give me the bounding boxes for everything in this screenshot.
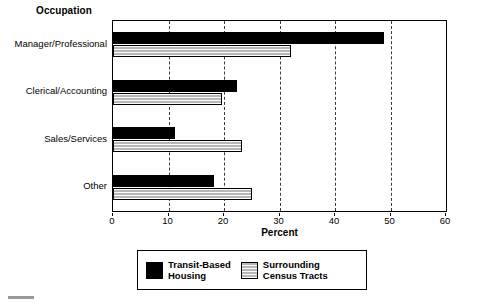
page-title: Occupation <box>36 5 92 16</box>
x-tick-label-20: 20 <box>218 215 229 226</box>
bar-surrounding-census-tracts-manager-professional <box>113 45 291 57</box>
y-axis-labels: Manager/Professional Clerical/Accounting… <box>0 20 107 212</box>
legend: Transit-Based Housing Surrounding Census… <box>137 250 367 290</box>
x-tick-label-60: 60 <box>440 215 451 226</box>
x-tick-mark-60 <box>445 213 446 216</box>
x-tick-mark-40 <box>334 213 335 216</box>
chart-page: Occupation Manager/Professional Clerical… <box>0 0 497 304</box>
bar-transit-based-housing-manager-professional <box>113 32 384 44</box>
x-tick-mark-30 <box>279 213 280 216</box>
x-tick-mark-0 <box>112 213 113 216</box>
y-axis-label-other: Other <box>83 180 107 191</box>
bar-transit-based-housing-clerical-accounting <box>113 80 237 92</box>
x-tick-mark-20 <box>223 213 224 216</box>
bar-transit-based-housing-other <box>113 175 214 187</box>
x-tick-mark-50 <box>390 213 391 216</box>
y-axis-label-clerical-accounting: Clerical/Accounting <box>26 85 107 96</box>
x-tick-label-40: 40 <box>329 215 340 226</box>
bar-surrounding-census-tracts-sales-services <box>113 140 242 152</box>
bar-group-clerical-accounting <box>113 69 446 117</box>
x-axis-title: Percent <box>112 227 447 238</box>
page-edge-artifact <box>8 296 34 299</box>
bar-surrounding-census-tracts-other <box>113 188 252 200</box>
bar-group-sales-services <box>113 116 446 164</box>
bar-surrounding-census-tracts-clerical-accounting <box>113 93 222 105</box>
x-tick-label-0: 0 <box>109 215 114 226</box>
x-tick-label-50: 50 <box>384 215 395 226</box>
bar-group-manager-professional <box>113 21 446 69</box>
bar-group-other <box>113 164 446 212</box>
x-tick-label-30: 30 <box>273 215 284 226</box>
y-axis-label-manager-professional: Manager/Professional <box>15 38 107 49</box>
x-tick-mark-10 <box>168 213 169 216</box>
plot-area <box>112 20 447 212</box>
legend-label-surrounding-census-tracts: Surrounding Census Tracts <box>263 259 328 281</box>
legend-item-transit-based-housing: Transit-Based Housing <box>146 259 231 281</box>
legend-swatch-icon-surrounding-census-tracts <box>241 262 258 279</box>
y-axis-label-sales-services: Sales/Services <box>44 133 107 144</box>
bar-transit-based-housing-sales-services <box>113 127 175 139</box>
legend-label-transit-based-housing: Transit-Based Housing <box>168 259 231 281</box>
legend-item-surrounding-census-tracts: Surrounding Census Tracts <box>241 259 328 281</box>
legend-swatch-icon-transit-based-housing <box>146 262 163 279</box>
x-tick-label-10: 10 <box>162 215 173 226</box>
